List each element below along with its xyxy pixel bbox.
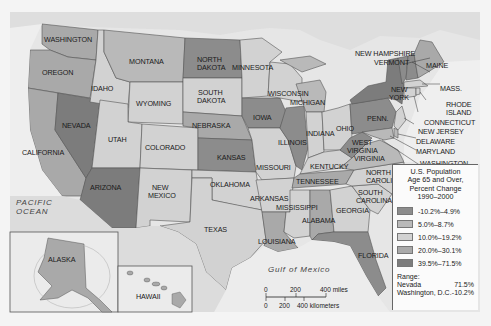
legend-label: 10.0%–19.2% bbox=[418, 234, 462, 241]
state-rhode-island[interactable] bbox=[416, 88, 420, 95]
label-west-virginia-2: VIRGINIA bbox=[347, 146, 378, 155]
label-kansas: KANSAS bbox=[217, 153, 246, 162]
legend-item: 20.0%–30.1% bbox=[397, 244, 474, 257]
label-iowa: IOWA bbox=[253, 113, 272, 122]
label-new-mexico-2: MEXICO bbox=[148, 191, 176, 200]
legend-swatch bbox=[397, 259, 413, 267]
legend-range: Range: Nevada 71.5% Washington, D.C. -10… bbox=[397, 273, 474, 297]
label-texas: TEXAS bbox=[204, 225, 227, 234]
scale-km-400: 400 kilometers bbox=[297, 302, 340, 309]
label-pacific-1: PACIFIC bbox=[16, 198, 53, 207]
label-maryland: MARYLAND bbox=[416, 147, 455, 156]
label-arkansas: ARKANSAS bbox=[250, 194, 289, 203]
label-new-hampshire: NEW HAMPSHIRE bbox=[355, 49, 416, 58]
label-vermont: VERMONT bbox=[374, 58, 410, 67]
label-michigan: MICHIGAN bbox=[290, 98, 325, 107]
label-mass: MASS. bbox=[440, 84, 462, 93]
state-montana[interactable] bbox=[104, 30, 185, 82]
legend-item: 39.5%–71.5% bbox=[397, 257, 474, 270]
label-utah: UTAH bbox=[108, 135, 127, 144]
legend-label: 5.0%–8.7% bbox=[418, 221, 454, 228]
label-wyoming: WYOMING bbox=[136, 99, 172, 108]
label-hawaii: HAWAII bbox=[136, 292, 161, 301]
legend-range-max: Nevada 71.5% bbox=[397, 281, 474, 289]
label-pacific-2: OCEAN bbox=[16, 207, 48, 216]
range-min-value: -10.2% bbox=[452, 289, 474, 297]
label-connecticut: CONNECTICUT bbox=[424, 118, 476, 127]
label-south-dakota-2: DAKOTA bbox=[197, 96, 226, 105]
label-alabama: ALABAMA bbox=[302, 216, 336, 225]
label-montana: MONTANA bbox=[129, 57, 164, 66]
label-nebraska: NEBRASKA bbox=[192, 121, 231, 130]
legend-item: 10.0%–19.2% bbox=[397, 231, 474, 244]
legend-swatch bbox=[397, 233, 413, 241]
legend-title: U.S. Population Age 65 and Over, Percent… bbox=[397, 168, 474, 202]
legend-item: 5.0%–8.7% bbox=[397, 218, 474, 231]
scale-miles-400: 400 miles bbox=[320, 286, 349, 293]
label-mississippi: MISSISSIPPI bbox=[276, 203, 318, 212]
scale-km-200: 200 bbox=[279, 302, 290, 309]
label-south-carolina-2: CAROLINA bbox=[356, 196, 392, 205]
label-minnesota: MINNESOTA bbox=[232, 63, 274, 72]
legend-label: 20.0%–30.1% bbox=[418, 247, 462, 254]
state-delaware[interactable] bbox=[394, 128, 398, 138]
scale-miles-0: 0 bbox=[264, 286, 268, 293]
label-california: CALIFORNIA bbox=[22, 148, 64, 157]
legend-range-min: Washington, D.C. -10.2% bbox=[397, 289, 474, 297]
legend-item: -10.2%–4.9% bbox=[397, 205, 474, 218]
label-idaho: IDAHO bbox=[91, 84, 114, 93]
map-legend: U.S. Population Age 65 and Over, Percent… bbox=[392, 164, 478, 310]
label-penn: PENN. bbox=[367, 114, 389, 123]
label-missouri: MISSOURI bbox=[256, 163, 291, 172]
label-nevada: NEVADA bbox=[62, 121, 91, 130]
range-max-name: Nevada bbox=[397, 281, 421, 289]
legend-range-label: Range: bbox=[397, 273, 474, 281]
label-new-jersey: NEW JERSEY bbox=[418, 127, 464, 136]
label-florida: FLORIDA bbox=[358, 251, 389, 260]
legend-label: 39.5%–71.5% bbox=[418, 260, 462, 267]
label-arizona: ARIZONA bbox=[90, 183, 122, 192]
label-tennessee: TENNESSEE bbox=[296, 177, 339, 186]
label-virginia: VIRGINIA bbox=[354, 154, 385, 163]
legend-swatch bbox=[397, 220, 413, 228]
label-north-dakota-2: DAKOTA bbox=[197, 63, 226, 72]
label-kentucky: KENTUCKY bbox=[310, 162, 349, 171]
label-gulf-of-mexico: Gulf of Mexico bbox=[268, 265, 330, 274]
label-ohio: OHIO bbox=[336, 124, 354, 133]
range-min-name: Washington, D.C. bbox=[397, 289, 452, 297]
label-georgia: GEORGIA bbox=[336, 206, 369, 215]
legend-swatch bbox=[397, 246, 413, 254]
label-illinois: ILLINOIS bbox=[278, 138, 307, 147]
label-wisconsin: WISCONSIN bbox=[268, 89, 309, 98]
label-oregon: OREGON bbox=[42, 68, 73, 77]
label-colorado: COLORADO bbox=[145, 143, 186, 152]
label-rhode-island-2: ISLAND bbox=[446, 108, 471, 117]
legend-label: -10.2%–4.9% bbox=[418, 208, 460, 215]
label-oklahoma: OKLAHOMA bbox=[210, 180, 250, 189]
legend-title-line-4: 1990–2000 bbox=[397, 193, 474, 201]
scale-miles-200: 200 bbox=[290, 286, 301, 293]
label-new-york-2: YORK bbox=[389, 93, 409, 102]
label-washington: WASHINGTON bbox=[44, 35, 92, 44]
label-louisiana: LOUISIANA bbox=[258, 237, 296, 246]
legend-swatch bbox=[397, 207, 413, 215]
range-max-value: 71.5% bbox=[454, 281, 474, 289]
label-maine: MAINE bbox=[426, 61, 449, 70]
label-indiana: INDIANA bbox=[306, 129, 335, 138]
label-delaware: DELAWARE bbox=[416, 137, 455, 146]
scale-km-0: 0 bbox=[264, 302, 268, 309]
label-alaska: ALASKA bbox=[48, 255, 76, 264]
